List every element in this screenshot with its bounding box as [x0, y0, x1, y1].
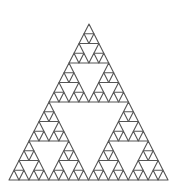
small-triangle — [49, 170, 59, 180]
small-triangle — [133, 122, 143, 132]
small-triangle — [113, 161, 123, 171]
small-triangle — [104, 141, 114, 151]
small-triangle — [59, 170, 69, 180]
small-triangle — [138, 131, 148, 141]
small-triangle — [138, 170, 148, 180]
small-triangle — [108, 170, 118, 180]
small-triangle — [34, 161, 44, 171]
small-triangle — [54, 122, 64, 132]
small-triangle — [19, 151, 29, 161]
small-triangle — [54, 161, 64, 171]
small-triangle — [69, 73, 79, 83]
small-triangle — [99, 92, 109, 102]
small-triangle — [148, 170, 158, 180]
small-triangle — [128, 170, 138, 180]
small-triangle — [29, 131, 39, 141]
small-triangle — [114, 122, 124, 132]
small-triangle — [158, 170, 168, 180]
small-triangle — [79, 53, 89, 63]
small-triangle — [119, 92, 129, 102]
small-triangle — [49, 131, 59, 141]
small-triangle — [109, 92, 119, 102]
small-triangle — [74, 161, 84, 171]
small-triangle — [69, 92, 79, 102]
small-triangle — [79, 92, 89, 102]
small-triangle — [108, 151, 118, 161]
small-triangle — [69, 170, 79, 180]
small-triangle — [133, 161, 143, 171]
small-triangle — [94, 83, 104, 93]
small-triangle — [69, 151, 79, 161]
small-triangle — [89, 53, 99, 63]
small-triangle — [114, 83, 124, 93]
small-triangle — [94, 44, 104, 54]
small-triangle — [153, 161, 163, 171]
small-triangle — [138, 151, 148, 161]
small-triangle — [99, 53, 109, 63]
small-triangle — [29, 151, 39, 161]
small-triangle — [59, 92, 69, 102]
small-triangle — [44, 102, 54, 112]
small-triangle — [39, 112, 49, 122]
small-triangle — [148, 151, 158, 161]
small-triangle — [9, 170, 19, 180]
small-triangle — [59, 131, 69, 141]
small-triangle — [74, 44, 84, 54]
small-triangle — [98, 170, 108, 180]
small-triangle — [124, 102, 134, 112]
small-triangle — [34, 122, 44, 132]
small-triangle — [89, 170, 99, 180]
small-triangle — [89, 92, 99, 102]
small-triangle — [128, 131, 138, 141]
small-triangle — [29, 170, 39, 180]
small-triangle — [118, 131, 128, 141]
small-triangle — [49, 112, 59, 122]
sierpinski-triangle-diagram — [0, 0, 183, 192]
small-triangle — [49, 92, 59, 102]
small-triangle — [89, 34, 99, 44]
small-triangle — [69, 53, 79, 63]
small-triangle — [59, 73, 69, 83]
small-triangle — [119, 112, 129, 122]
small-triangle — [79, 170, 89, 180]
small-triangle — [64, 63, 74, 73]
small-triangle — [39, 131, 49, 141]
small-triangle — [109, 73, 119, 83]
small-triangle — [79, 34, 89, 44]
small-triangle — [99, 151, 109, 161]
small-triangle — [128, 112, 138, 122]
small-triangle — [59, 151, 69, 161]
small-triangle — [118, 170, 128, 180]
small-triangle — [54, 83, 64, 93]
small-triangle — [104, 63, 114, 73]
small-triangle — [14, 161, 24, 171]
small-triangle — [74, 83, 84, 93]
small-triangle — [64, 141, 74, 151]
small-triangle — [143, 141, 153, 151]
small-triangle — [24, 141, 34, 151]
small-triangle — [39, 170, 49, 180]
small-triangle — [84, 24, 94, 34]
small-triangle — [109, 131, 119, 141]
small-triangle — [19, 170, 29, 180]
small-triangle — [99, 73, 109, 83]
sierpinski-triangle — [9, 24, 168, 180]
small-triangle — [94, 161, 104, 171]
